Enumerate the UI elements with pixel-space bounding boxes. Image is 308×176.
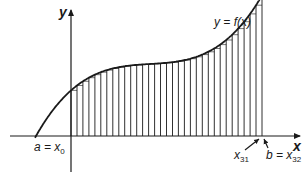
x31-label-subscript: 31	[240, 155, 249, 164]
b-label-subscript: 32	[292, 155, 301, 164]
x31-label: x31	[234, 149, 249, 164]
a-label-text: a = x	[34, 140, 60, 154]
b-equals-x32-label: b = x32	[266, 149, 301, 164]
curve-label: y = f(x)	[214, 16, 251, 28]
a-equals-x0-label: a = x0	[34, 141, 65, 156]
y-axis-label: y	[59, 5, 67, 19]
b-label-text: b = x	[266, 148, 292, 162]
a-label-subscript: 0	[60, 147, 64, 156]
b-pointer-arrow	[264, 139, 268, 148]
